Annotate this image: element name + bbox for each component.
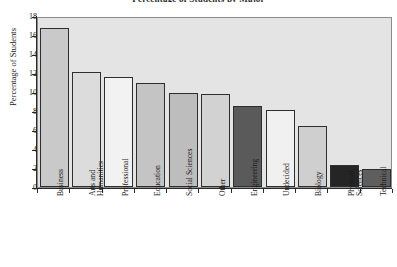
- bar-chart-figure: Percentage of Students by Major Percenta…: [0, 0, 397, 267]
- y-axis-ticks: 024681012141618: [0, 0, 37, 267]
- x-axis-category-label: Social Sciences: [186, 149, 194, 196]
- chart-title: Percentage of Students by Major: [0, 0, 397, 2]
- bar: [201, 94, 230, 187]
- y-tick-label: 2: [11, 165, 37, 173]
- y-tick-label: 4: [11, 146, 37, 154]
- y-tick-label: 6: [11, 127, 37, 135]
- y-tick-label: 14: [11, 51, 37, 59]
- y-tick-label: 8: [11, 108, 37, 116]
- x-axis-category-label: Physical Sciences: [348, 169, 365, 196]
- x-tick-mark: [198, 189, 199, 193]
- x-tick-mark: [231, 189, 232, 193]
- x-tick-mark: [69, 189, 70, 193]
- x-axis-category-label: Education: [154, 165, 162, 196]
- x-axis-category-label: Biology: [315, 172, 323, 196]
- x-axis-category-label: Engineering: [251, 159, 259, 196]
- x-axis-category-label: Arts and Humanities: [89, 161, 106, 196]
- x-axis-category-label: Business: [57, 169, 65, 196]
- x-axis-category-label: Professional: [122, 158, 130, 196]
- x-tick-mark: [166, 189, 167, 193]
- bar: [40, 28, 69, 187]
- y-tick-label: 16: [11, 32, 37, 40]
- y-tick-label: 0: [11, 184, 37, 192]
- x-tick-mark: [134, 189, 135, 193]
- y-tick-label: 12: [11, 70, 37, 78]
- x-tick-mark: [392, 189, 393, 193]
- x-tick-mark: [327, 189, 328, 193]
- y-tick-label: 10: [11, 89, 37, 97]
- x-tick-mark: [295, 189, 296, 193]
- x-axis-category-label: Technical: [380, 167, 388, 196]
- y-tick-label: 18: [11, 13, 37, 21]
- x-tick-mark: [37, 189, 38, 193]
- x-tick-mark: [263, 189, 264, 193]
- x-axis-category-label: Undecided: [283, 163, 291, 196]
- x-axis-category-label: Other: [219, 179, 227, 196]
